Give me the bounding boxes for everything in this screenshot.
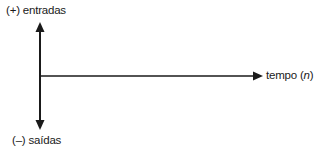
time-label-suffix: ) xyxy=(310,69,314,81)
inflows-label: (+) entradas xyxy=(6,4,66,16)
time-label: tempo (n) xyxy=(266,69,313,81)
time-label-prefix: tempo ( xyxy=(266,69,304,81)
arrow-down-icon xyxy=(36,120,45,130)
arrow-up-icon xyxy=(36,22,45,32)
outflows-label: (–) saídas xyxy=(12,134,61,146)
arrow-right-icon xyxy=(253,72,263,81)
